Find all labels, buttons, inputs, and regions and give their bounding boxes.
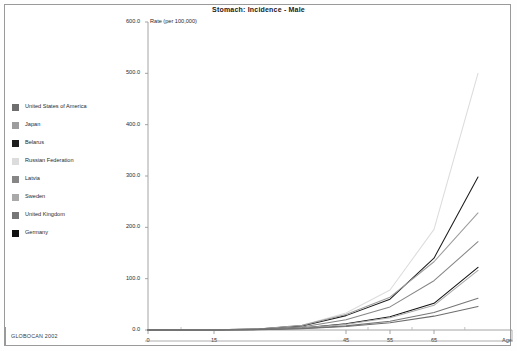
chart-canvas	[0, 0, 517, 351]
series-line	[148, 267, 478, 330]
series-line	[148, 73, 478, 330]
chart-page: Stomach: Incidence - Male United States …	[0, 0, 517, 351]
series-line	[148, 270, 478, 330]
plot-area: Rate (per 100,000) 0.0100.0200.0300.0400…	[0, 0, 517, 351]
series-line	[148, 213, 478, 330]
